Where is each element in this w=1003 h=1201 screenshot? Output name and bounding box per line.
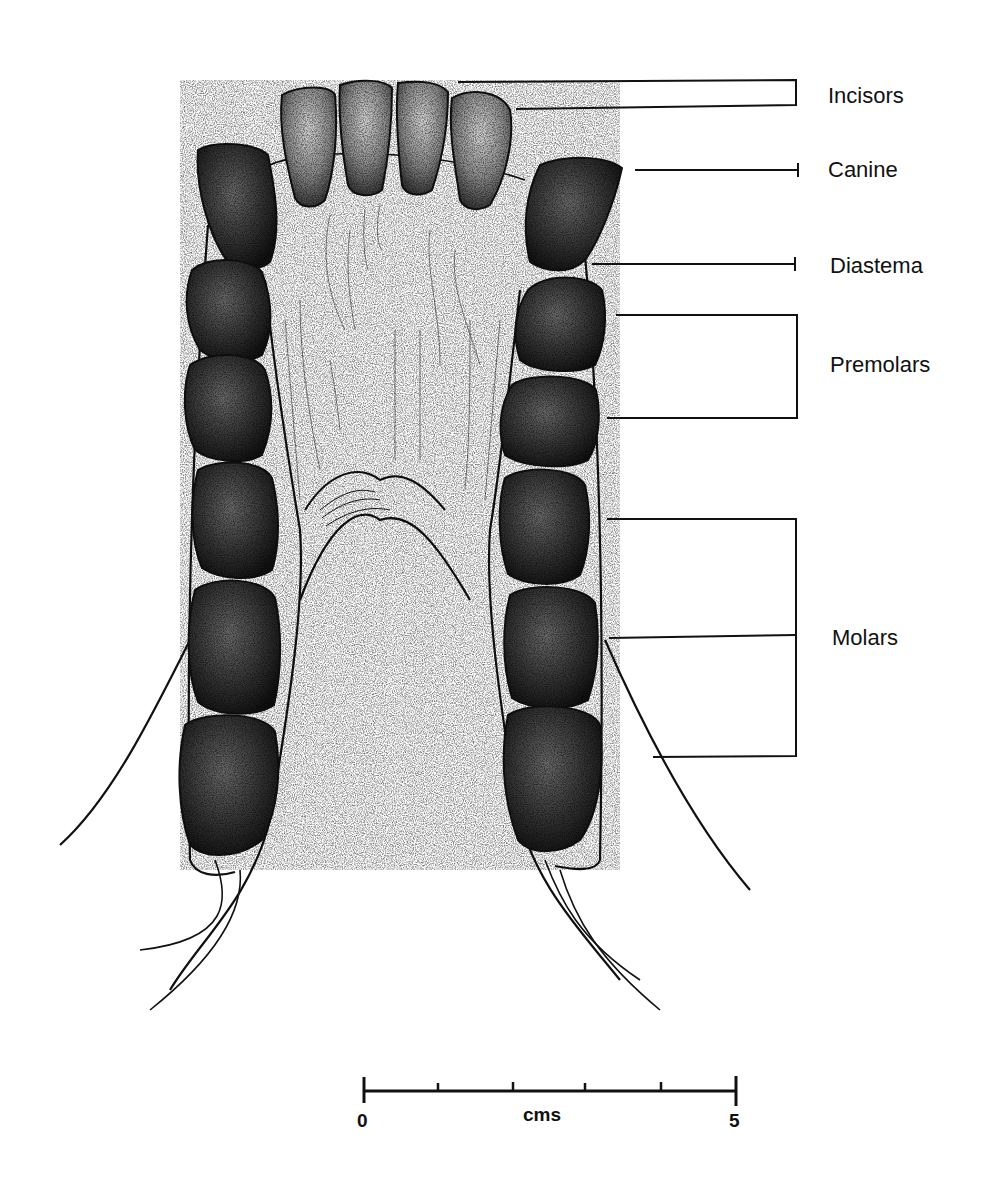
label-molars: Molars (832, 625, 898, 651)
scale-bar (364, 1076, 736, 1106)
label-premolars: Premolars (830, 352, 930, 378)
scale-start-label: 0 (357, 1110, 368, 1132)
label-incisors: Incisors (828, 83, 904, 109)
scale-end-label: 5 (729, 1110, 740, 1132)
scale-unit-label: cms (523, 1104, 561, 1126)
label-canine: Canine (828, 157, 898, 183)
label-diastema: Diastema (830, 253, 923, 279)
